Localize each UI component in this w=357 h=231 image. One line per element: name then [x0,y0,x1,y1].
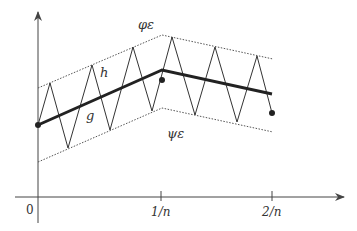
label-g: g [86,108,94,123]
diagram-canvas: φε ψε h g 0 1/n 2/n [0,0,357,231]
label-h: h [100,65,108,80]
start-dot [35,122,41,128]
zigzag-h [38,37,272,148]
lower-bound-psi [38,108,273,162]
end-dot [269,110,275,116]
mid-dot [159,77,165,83]
tick-label-0: 0 [26,203,34,217]
upper-bound-phi [38,35,273,88]
label-psi-epsilon: ψε [167,126,184,141]
piecewise-g [38,70,272,125]
tick-label-2-over-n: 2/n [261,205,281,219]
tick-label-1-over-n: 1/n [151,205,170,219]
label-phi-epsilon: φε [138,17,154,32]
